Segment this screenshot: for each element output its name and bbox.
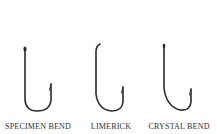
crystal-bend-hook	[163, 44, 191, 111]
limerick-label: LIMERICK	[87, 122, 135, 131]
crystal-bend-label: CRYSTAL BEND	[145, 122, 213, 131]
hooks-illustration	[0, 0, 217, 134]
limerick-hook	[96, 44, 123, 111]
specimen-bend-hook	[23, 46, 51, 111]
specimen-bend-label: SPECIMEN BEND	[2, 122, 74, 131]
